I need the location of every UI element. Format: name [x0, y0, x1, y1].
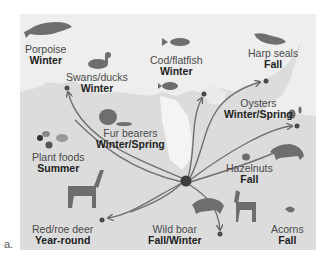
- label-plant-foods: Plant foods Summer: [32, 152, 85, 174]
- label-swans: Swans/ducks Winter: [66, 72, 128, 94]
- label-red-roe-deer: Red/roe deer Year-round: [32, 224, 93, 246]
- resource-season: Winter: [66, 83, 128, 94]
- resource-season: Winter/Spring: [96, 139, 165, 150]
- resource-season: Fall: [271, 235, 304, 246]
- resource-season: Year-round: [32, 235, 93, 246]
- label-cod: Cod/flatfish Winter: [150, 55, 203, 77]
- resource-season: Winter: [25, 55, 66, 66]
- label-fur-bearers: Fur bearers Winter/Spring: [96, 128, 165, 150]
- label-acorns: Acorns Fall: [271, 224, 304, 246]
- label-oysters: Oysters Winter/Spring: [224, 98, 293, 120]
- label-wild-boar: Wild boar Fall/Winter: [148, 224, 202, 246]
- label-hazelnuts: Hazelnuts Fall: [226, 163, 273, 185]
- resource-season: Fall: [226, 174, 273, 185]
- resource-season: Fall: [248, 59, 298, 70]
- resource-season: Winter/Spring: [224, 109, 293, 120]
- hub-site: [181, 176, 192, 187]
- figure-label: a.: [4, 238, 13, 250]
- duck-icon: [88, 52, 111, 69]
- porpoise-icon: [24, 22, 72, 38]
- resource-season: Fall/Winter: [148, 235, 202, 246]
- resource-season: Winter: [150, 66, 203, 77]
- resource-season: Summer: [32, 163, 85, 174]
- label-harp-seals: Harp seals Fall: [248, 48, 298, 70]
- label-porpoise: Porpoise Winter: [25, 44, 66, 66]
- seal-icon: [254, 33, 286, 44]
- hazelnut-icon: [242, 154, 250, 161]
